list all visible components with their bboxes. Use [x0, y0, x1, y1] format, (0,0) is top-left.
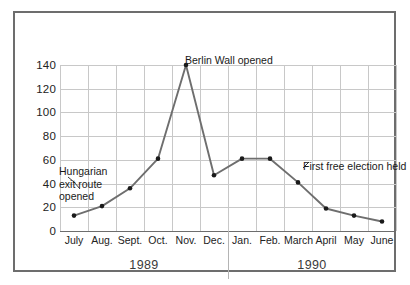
annotation-leader-lines	[60, 65, 396, 231]
x-axis-tick-label: Dec.	[200, 234, 228, 251]
annotation-hungarian-exit-route: Hungarian exit route opened	[59, 165, 107, 203]
x-axis-tick-label: May	[340, 234, 368, 251]
y-axis-tick-label: 40	[16, 178, 56, 190]
x-axis-tick-label: June	[368, 234, 396, 251]
chart-figure: 140 120 100 80 60 40 20 0	[0, 0, 410, 285]
annotation-berlin-wall-opened: Berlin Wall opened	[185, 54, 273, 67]
gridline-vertical	[396, 65, 397, 231]
y-axis-tick-label: 60	[16, 154, 56, 166]
year-group-label-1989: 1989	[129, 258, 158, 272]
plot-area	[60, 65, 396, 231]
x-axis-tick-label: Jan.	[228, 234, 256, 251]
y-axis-tick-label: 140	[16, 59, 56, 71]
y-axis-labels: 140 120 100 80 60 40 20 0	[15, 65, 56, 231]
x-axis-tick-label: Nov.	[172, 234, 200, 251]
x-axis-tick-label: July	[60, 234, 88, 251]
chart-frame: 140 120 100 80 60 40 20 0	[13, 11, 396, 272]
x-axis-tick-label: Sept.	[116, 234, 144, 251]
y-axis-tick-label: 20	[16, 201, 56, 213]
year-group-label-1990: 1990	[297, 258, 326, 272]
annotation-first-free-election: First free election held	[303, 160, 406, 173]
y-axis-tick-label: 80	[16, 130, 56, 142]
x-axis-tick-label: April	[312, 234, 340, 251]
x-axis-tick-label: Aug.	[88, 234, 116, 251]
x-axis-tick-label: March	[284, 234, 312, 251]
y-axis-tick-label: 100	[16, 106, 56, 118]
x-axis-tick-label: Feb.	[256, 234, 284, 251]
y-axis-tick-label: 120	[16, 83, 56, 95]
year-group-labels: 1989 1990	[60, 258, 396, 276]
x-axis-tick-label: Oct.	[144, 234, 172, 251]
y-axis-tick-label: 0	[16, 225, 56, 237]
